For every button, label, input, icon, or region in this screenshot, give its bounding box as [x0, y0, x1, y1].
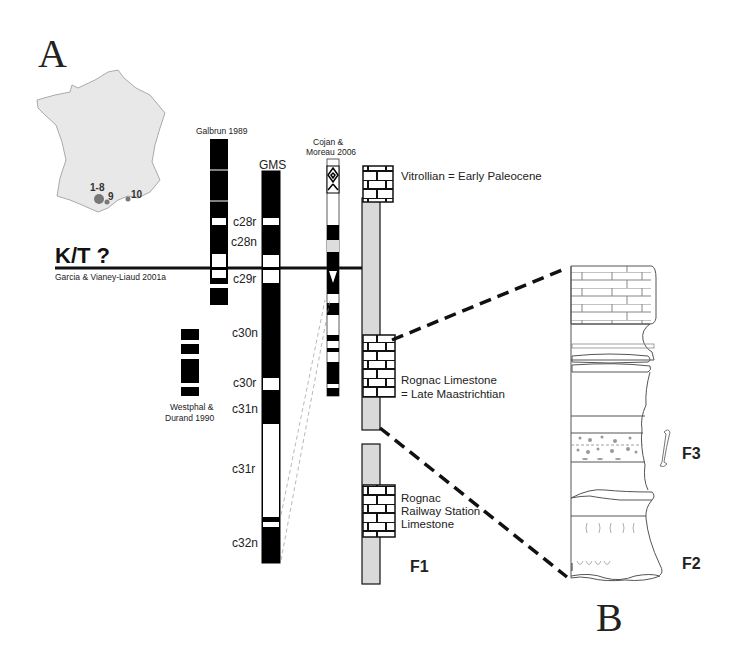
- railway-label-3: Limestone: [401, 518, 454, 530]
- gms-label: GMS: [259, 158, 286, 172]
- f1-label: F1: [410, 558, 429, 576]
- chron-c32n: c32n: [232, 536, 258, 550]
- site-label-9: 9: [108, 191, 114, 202]
- site-label-1-8: 1-8: [90, 182, 104, 193]
- rognac-label-1: Rognac Limestone: [401, 374, 497, 386]
- site-label-10: 10: [131, 189, 142, 200]
- railway-label-1: Rognac: [401, 492, 441, 504]
- detailed-section-b: [571, 266, 670, 581]
- cojan-label-2: Moreau 2006: [306, 147, 356, 158]
- gms-column: [262, 171, 280, 563]
- section-column: [362, 166, 395, 584]
- chron-c29r: c29r: [233, 272, 256, 286]
- railway-label-2: Railway Station: [401, 505, 480, 517]
- chron-c31r: c31r: [232, 462, 255, 476]
- vitrollian-limestone: [363, 166, 393, 202]
- vitrollian-label: Vitrollian = Early Paleocene: [401, 170, 542, 182]
- f3-label: F3: [682, 445, 701, 463]
- westphal-label-2: Durand 1990: [165, 413, 214, 424]
- cojan-column: [327, 159, 339, 396]
- westphal-label-1: Westphal &: [170, 402, 213, 413]
- chron-c31n: c31n: [232, 402, 258, 416]
- westphal-column: [181, 329, 199, 396]
- bone-icon: [660, 430, 670, 467]
- chron-c28r: c28r: [233, 215, 256, 229]
- boundary-reference: Garcia & Vianey-Liaud 2001a: [55, 272, 166, 283]
- site-marker-1-8: [94, 194, 104, 204]
- kt-boundary-label: K/T ?: [55, 243, 110, 269]
- rognac-limestone: [363, 335, 395, 397]
- site-marker-10: [126, 197, 131, 202]
- stratigraphy-diagram: [0, 0, 736, 667]
- chron-c30r: c30r: [233, 376, 256, 390]
- chron-c28n: c28n: [231, 235, 257, 249]
- galbrun-label: Galbrun 1989: [196, 126, 248, 137]
- rognac-label-2: = Late Maastrichtian: [401, 388, 505, 400]
- railway-station-limestone: [363, 485, 395, 537]
- chron-c30n: c30n: [232, 326, 258, 340]
- f2-label: F2: [682, 555, 701, 573]
- galbrun-column: [210, 139, 228, 305]
